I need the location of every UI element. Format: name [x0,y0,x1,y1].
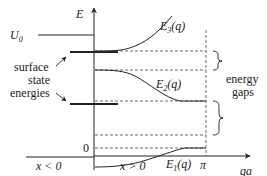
qa-axis-label: qa [240,164,252,176]
gap-boundary-lines [95,30,206,156]
upper-gap-brace [213,51,222,70]
lower-gap-brace [213,101,223,135]
region-left-label: x < 0 [35,159,61,173]
gaps-text-1: energy [226,72,258,86]
surface-state-text-2: state [28,73,50,87]
arrow-to-upper-state [56,57,66,66]
band-e3-label: E3(q) [159,19,185,35]
surface-state-text-3: energies [10,86,50,100]
origin-label: 0 [83,141,89,155]
band-e2-label: E2(q) [155,77,181,93]
surface-state-text-1: surface [14,60,49,74]
region-right-label: x > 0 [119,159,145,173]
gaps-text-2: gaps [232,85,254,99]
energy-axis-label: E [75,7,84,21]
arrow-to-lower-state [56,93,66,101]
pi-label: π [200,158,207,172]
band-e2-curve [95,70,206,101]
band-e1-label: E1(q) [165,157,191,173]
potential-label: U0 [10,28,23,44]
band-structure-diagram: E qa 0 U0 surface state energies π E3(q)… [0,0,267,176]
